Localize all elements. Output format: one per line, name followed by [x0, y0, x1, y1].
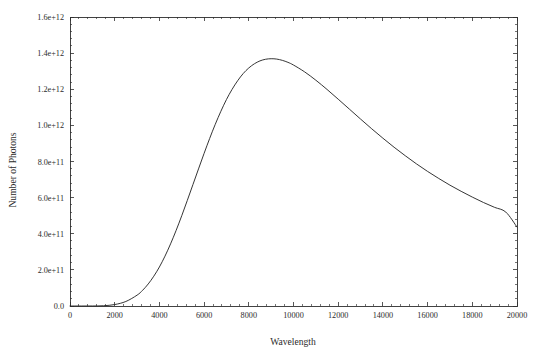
- x-tick-label: 16000: [417, 311, 437, 320]
- x-tick-label: 10000: [283, 311, 303, 320]
- y-tick-label: 2.0e+11: [38, 266, 64, 275]
- plot-frame: [70, 17, 517, 306]
- x-axis-title: Wavelength: [270, 336, 316, 347]
- y-tick-label: 1.6e+12: [37, 13, 64, 22]
- y-tick-label: 1.4e+12: [37, 49, 64, 58]
- chart-figure: 0200040006000800010000120001400016000180…: [0, 0, 540, 356]
- x-tick-label: 4000: [151, 311, 167, 320]
- x-tick-label-group: 0200040006000800010000120001400016000180…: [68, 311, 527, 320]
- y-tick-label: 6.0e+11: [38, 194, 64, 203]
- x-tick-label: 6000: [196, 311, 212, 320]
- y-tick-label: 0.0: [54, 302, 64, 311]
- x-tick-label: 14000: [373, 311, 393, 320]
- y-tick-label: 1.2e+12: [37, 85, 64, 94]
- x-tick-label: 0: [68, 311, 72, 320]
- photon-spectrum-curve: [70, 59, 517, 306]
- major-tick-group: [70, 17, 517, 306]
- x-tick-label: 8000: [241, 311, 257, 320]
- y-axis-title: Number of Photons: [7, 132, 18, 207]
- y-tick-label: 4.0e+11: [38, 230, 64, 239]
- x-tick-label: 18000: [462, 311, 482, 320]
- y-tick-label: 1.0e+12: [37, 121, 64, 130]
- x-tick-label: 20000: [507, 311, 527, 320]
- y-tick-label: 8.0e+11: [38, 158, 64, 167]
- y-tick-label-group: 0.02.0e+114.0e+116.0e+118.0e+111.0e+121.…: [37, 13, 64, 311]
- chart-canvas: 0200040006000800010000120001400016000180…: [0, 0, 540, 356]
- x-tick-label: 12000: [328, 311, 348, 320]
- minor-tick-group: [70, 17, 517, 306]
- x-tick-label: 2000: [107, 311, 123, 320]
